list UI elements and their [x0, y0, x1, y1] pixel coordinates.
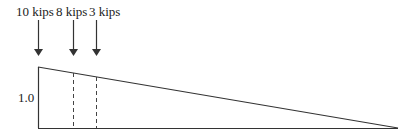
arrow-down-icon [92, 20, 101, 56]
influence-triangle [38, 67, 398, 129]
arrow-down-icon [34, 20, 43, 56]
arrow-down-icon [69, 20, 78, 56]
sloped-edge [38, 67, 398, 128]
influence-line-diagram [0, 0, 415, 135]
dashed-ordinates [74, 73, 97, 128]
load-arrows [34, 20, 101, 56]
